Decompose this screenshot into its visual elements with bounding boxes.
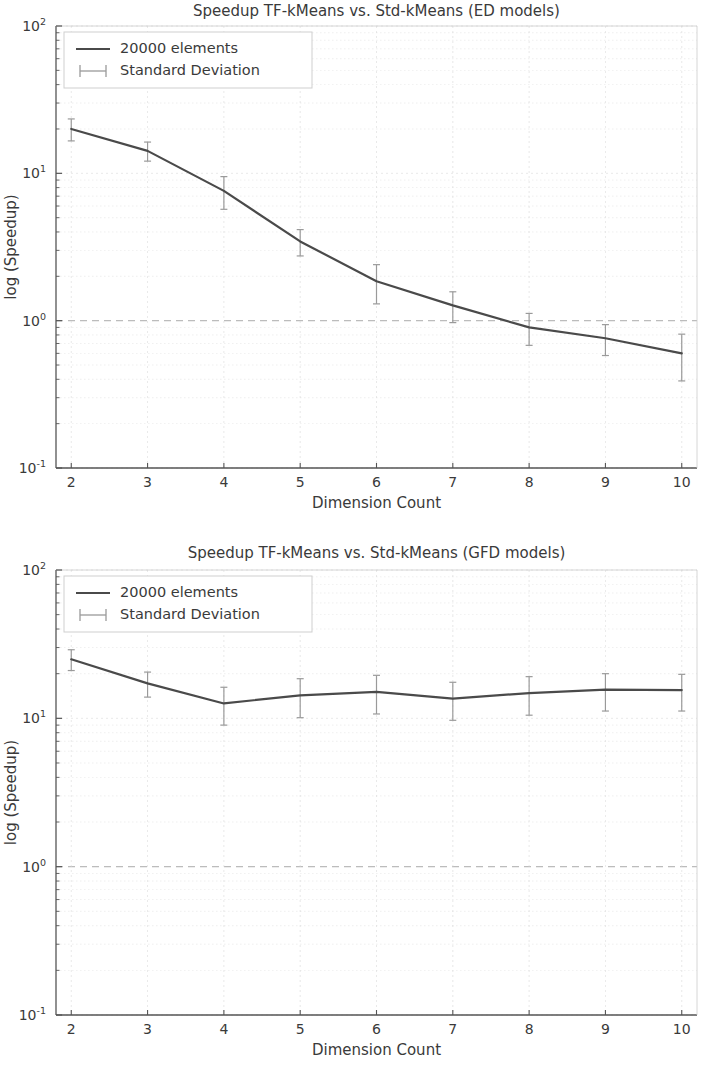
y-tick-label: 101 — [22, 163, 46, 181]
x-tick-label: 2 — [67, 1021, 76, 1037]
legend-label-series: 20000 elements — [120, 40, 238, 56]
legend-label-series: 20000 elements — [120, 584, 238, 600]
y-axis-ticks — [56, 570, 62, 1015]
chart-svg-ed: 10-11001011022345678910Speedup TF-kMeans… — [0, 0, 703, 528]
y-tick-label: 102 — [22, 560, 46, 578]
y-tick-label: 10-1 — [19, 458, 46, 476]
x-tick-label: 10 — [673, 474, 691, 490]
y-axis-ticks — [56, 26, 62, 468]
figure-root: 10-11001011022345678910Speedup TF-kMeans… — [0, 0, 703, 1068]
x-tick-label: 3 — [143, 474, 152, 490]
x-tick-label: 4 — [219, 1021, 228, 1037]
x-tick-label: 8 — [525, 474, 534, 490]
y-axis-tick-labels: 10-1100101102 — [19, 16, 46, 476]
chart-title: Speedup TF-kMeans vs. Std-kMeans (ED mod… — [193, 2, 560, 20]
x-axis-label: Dimension Count — [312, 1041, 441, 1059]
chart-panel-ed: 10-11001011022345678910Speedup TF-kMeans… — [0, 0, 703, 528]
chart-legend[interactable]: 20000 elementsStandard Deviation — [64, 576, 312, 632]
x-gridlines — [71, 570, 681, 1015]
y-tick-label: 100 — [22, 857, 46, 875]
x-tick-label: 5 — [296, 474, 305, 490]
y-tick-label: 101 — [22, 708, 46, 726]
y-tick-label: 10-1 — [19, 1005, 46, 1023]
y-axis-label: log (Speedup) — [2, 740, 20, 845]
x-tick-label: 9 — [601, 474, 610, 490]
x-tick-label: 5 — [296, 1021, 305, 1037]
x-tick-label: 3 — [143, 1021, 152, 1037]
chart-svg-gfd: 10-11001011022345678910Speedup TF-kMeans… — [0, 528, 703, 1068]
x-tick-label: 2 — [67, 474, 76, 490]
chart-title: Speedup TF-kMeans vs. Std-kMeans (GFD mo… — [188, 544, 566, 562]
x-tick-label: 6 — [372, 1021, 381, 1037]
x-tick-label: 8 — [525, 1021, 534, 1037]
x-tick-label: 10 — [673, 1021, 691, 1037]
x-axis-ticks: 2345678910 — [67, 1010, 691, 1037]
x-tick-label: 4 — [219, 474, 228, 490]
y-axis-label: log (Speedup) — [2, 194, 20, 299]
x-tick-label: 7 — [448, 1021, 457, 1037]
legend-label-errorbar: Standard Deviation — [120, 606, 260, 622]
x-tick-label: 9 — [601, 1021, 610, 1037]
x-tick-label: 7 — [448, 474, 457, 490]
y-tick-label: 102 — [22, 16, 46, 34]
chart-panel-gfd: 10-11001011022345678910Speedup TF-kMeans… — [0, 528, 703, 1068]
x-gridlines — [71, 26, 681, 468]
x-axis-label: Dimension Count — [312, 494, 441, 512]
x-axis-ticks: 2345678910 — [67, 463, 691, 490]
y-tick-label: 100 — [22, 311, 46, 329]
x-tick-label: 6 — [372, 474, 381, 490]
chart-legend[interactable]: 20000 elementsStandard Deviation — [64, 32, 312, 88]
legend-label-errorbar: Standard Deviation — [120, 62, 260, 78]
y-axis-tick-labels: 10-1100101102 — [19, 560, 46, 1023]
